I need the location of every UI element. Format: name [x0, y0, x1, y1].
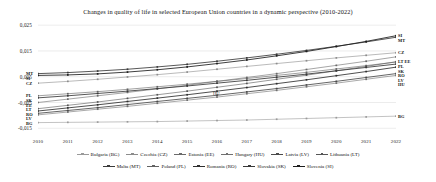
series-marker-SK	[276, 76, 278, 78]
x-tick-label: 2021	[354, 139, 378, 144]
series-marker-LT	[67, 104, 69, 106]
legend-label: Slovenia (SI)	[307, 164, 334, 169]
series-marker-EE	[67, 98, 69, 100]
legend-item-CZ[interactable]: Czechia (CZ)	[126, 152, 167, 157]
series-marker-EE	[395, 56, 396, 58]
legend-item-MT[interactable]: Malta (MT)	[103, 164, 141, 169]
series-marker-SI	[395, 35, 396, 37]
legend-swatch-icon	[293, 164, 305, 169]
series-marker-RO	[127, 101, 129, 103]
series-marker-SK	[246, 79, 248, 81]
series-marker-BG	[216, 120, 218, 122]
series-marker-PL	[365, 65, 367, 67]
series-marker-LV	[67, 110, 69, 112]
series-marker-LT	[186, 90, 188, 92]
series-label-right-HU: HU	[398, 82, 405, 87]
legend-item-BG[interactable]: Bulgaria (BG)	[77, 152, 120, 157]
series-marker-HU	[365, 78, 367, 80]
y-tick-label: -0,015	[2, 125, 32, 131]
series-marker-CZ	[127, 76, 129, 78]
series-label-right-MT: MT	[398, 38, 405, 43]
legend-swatch-icon	[221, 152, 233, 157]
series-marker-LV	[306, 84, 308, 86]
series-marker-MT	[67, 72, 69, 74]
legend-label: Bulgaria (BG)	[91, 152, 120, 157]
legend-item-LV[interactable]: Latvia (LV)	[271, 152, 309, 157]
series-label-right-BG: BG	[398, 114, 404, 119]
series-marker-HU	[67, 111, 69, 113]
y-tick-label: 0,015	[2, 48, 32, 54]
series-marker-MT	[156, 66, 158, 68]
legend-label: Romania (RO)	[207, 164, 237, 169]
legend-label: Slovakia (SK)	[257, 164, 285, 169]
series-marker-PL	[67, 93, 69, 95]
legend-item-SI[interactable]: Slovenia (SI)	[293, 164, 334, 169]
series-marker-RO	[97, 104, 99, 106]
series-marker-RO	[186, 94, 188, 96]
series-marker-SI	[276, 55, 278, 57]
legend-swatch-icon	[271, 152, 283, 157]
series-marker-RO	[335, 75, 337, 77]
series-marker-RO	[156, 97, 158, 99]
series-marker-CZ	[276, 63, 278, 65]
legend-row-2: Malta (MT)Poland (PL)Romania (RO)Slovaki…	[0, 164, 436, 169]
legend-item-SK[interactable]: Slovakia (SK)	[243, 164, 285, 169]
series-marker-MT	[216, 60, 218, 62]
legend-label: Estonia (EE)	[188, 152, 214, 157]
series-marker-RO	[67, 107, 69, 109]
series-marker-CZ	[395, 52, 396, 54]
series-marker-LT	[127, 98, 129, 100]
series-label-left-BG: BG	[26, 121, 32, 126]
x-tick-label: 2015	[175, 139, 199, 144]
legend-label: Malta (MT)	[117, 164, 141, 169]
series-marker-LV	[127, 104, 129, 106]
series-marker-BG	[67, 121, 69, 123]
series-marker-CZ	[156, 74, 158, 76]
legend-item-HU[interactable]: Hungary (HU)	[221, 152, 264, 157]
series-marker-MT	[38, 73, 39, 75]
series-marker-SK	[67, 95, 69, 97]
series-label-right-CZ: CZ	[398, 50, 404, 55]
series-marker-PL	[127, 88, 129, 90]
series-marker-HU	[395, 75, 396, 77]
series-marker-PL	[246, 78, 248, 80]
x-tick-label: 2016	[205, 139, 229, 144]
series-marker-SI	[186, 66, 188, 68]
series-marker-EE	[276, 73, 278, 75]
series-marker-LV	[186, 98, 188, 100]
series-marker-CZ	[97, 78, 99, 80]
series-marker-SK	[395, 63, 396, 65]
legend-label: Czechia (CZ)	[140, 152, 167, 157]
series-marker-HU	[38, 114, 39, 116]
series-marker-BG	[306, 118, 308, 120]
legend-item-LT[interactable]: Lithuania (LT)	[316, 152, 359, 157]
series-marker-BG	[276, 118, 278, 120]
series-marker-HU	[216, 96, 218, 98]
x-tick-label: 2011	[56, 139, 80, 144]
series-marker-SK	[156, 88, 158, 90]
series-marker-MT	[97, 70, 99, 72]
x-tick-label: 2014	[145, 139, 169, 144]
series-marker-MT	[276, 53, 278, 55]
series-marker-CZ	[306, 60, 308, 62]
series-marker-LT	[276, 78, 278, 80]
x-tick-label: 2020	[324, 139, 348, 144]
legend-item-EE[interactable]: Estonia (EE)	[174, 152, 214, 157]
series-marker-LT	[156, 94, 158, 96]
series-marker-RO	[38, 110, 39, 112]
legend-swatch-icon	[126, 152, 138, 157]
series-marker-PL	[216, 81, 218, 83]
series-marker-HU	[276, 90, 278, 92]
series-marker-SK	[127, 90, 129, 92]
series-marker-EE	[365, 60, 367, 62]
legend-swatch-icon	[77, 152, 89, 157]
series-marker-LV	[97, 107, 99, 109]
series-marker-PL	[306, 71, 308, 73]
series-marker-CZ	[67, 81, 69, 83]
legend-item-RO[interactable]: Romania (RO)	[193, 164, 237, 169]
series-marker-PL	[395, 61, 396, 63]
x-tick-label: 2017	[235, 139, 259, 144]
series-marker-CZ	[216, 68, 218, 70]
y-tick-label: 0,025	[2, 22, 32, 28]
legend-item-PL[interactable]: Poland (PL)	[147, 164, 185, 169]
